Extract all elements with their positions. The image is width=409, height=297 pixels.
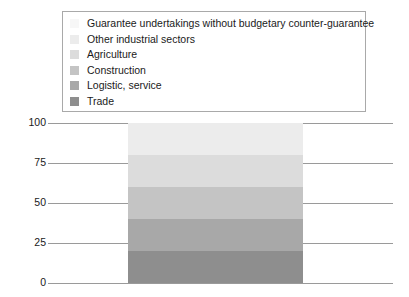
legend-item-label: Guarantee undertakings without budgetary… [87,18,374,29]
legend-item[interactable]: Agriculture [63,47,365,63]
legend-item-label: Construction [87,65,146,76]
legend-item[interactable]: Construction [63,63,365,79]
legend-item[interactable]: Guarantee undertakings without budgetary… [63,16,365,32]
y-axis-tick-label: 25 [6,237,46,248]
legend-color-swatch [70,97,79,106]
legend-item-label: Trade [87,96,114,107]
legend-color-swatch [70,35,79,44]
legend-color-swatch [70,50,79,59]
bar-segment [128,123,303,155]
chart-container: 1007550250 Guarantee undertakings withou… [0,0,409,297]
bar-segment [128,187,303,219]
y-axis-tick-label: 50 [6,197,46,208]
y-axis-tick-label: 0 [6,277,46,288]
legend-item-label: Other industrial sectors [87,34,195,45]
stacked-bar [128,123,303,283]
legend-item-label: Logistic, service [87,80,162,91]
y-axis-tick-label: 100 [6,117,46,128]
legend-item[interactable]: Other industrial sectors [63,32,365,48]
y-axis-tick-label: 75 [6,157,46,168]
bar-segment [128,155,303,187]
legend-color-swatch [70,66,79,75]
legend: Guarantee undertakings without budgetary… [62,11,366,112]
legend-color-swatch [70,19,79,28]
bar-segment [128,219,303,251]
legend-item[interactable]: Logistic, service [63,78,365,94]
legend-item[interactable]: Trade [63,94,365,110]
legend-item-label: Agriculture [87,49,137,60]
gridline [48,283,393,284]
bar-segment [128,251,303,283]
legend-color-swatch [70,81,79,90]
